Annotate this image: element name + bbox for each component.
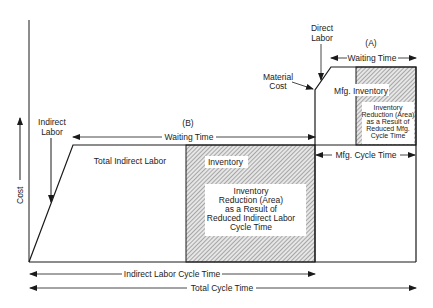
mfg-inventory-label: Mfg. Inventory [334, 86, 389, 96]
mfg-cycle-time-label: Mfg. Cycle Time [336, 150, 397, 160]
inventory-reduction-b-5: Cycle Time [230, 222, 272, 232]
waiting-time-a-label: Waiting Time [348, 53, 397, 63]
direct-labor-label: Direct [311, 23, 334, 33]
y-axis-label: Cost [15, 186, 25, 204]
total-indirect-labor-label: Total Indirect Labor [94, 156, 166, 166]
indirect-labor-label-2: Labor [41, 127, 63, 137]
direct-labor-label-2: Labor [311, 33, 333, 43]
inventory-reduction-a-3: as a Result of [367, 118, 410, 125]
inventory-label: Inventory [208, 157, 244, 167]
material-cost-pointer [292, 82, 313, 89]
waiting-time-b-label: Waiting Time [165, 132, 214, 142]
b-marker: (B) [182, 118, 194, 128]
cycle-time-cost-diagram: Cost Indirect Labor Total Indirect Labor… [0, 0, 433, 308]
material-cost-label-2: Cost [269, 81, 287, 91]
indirect-cycle-time-label: Indirect Labor Cycle Time [124, 269, 221, 279]
total-cycle-time-label: Total Cycle Time [191, 283, 254, 293]
a-marker: (A) [365, 38, 377, 48]
inventory-reduction-a-5: Cycle Time [371, 132, 406, 140]
indirect-labor-label: Indirect [38, 117, 67, 127]
